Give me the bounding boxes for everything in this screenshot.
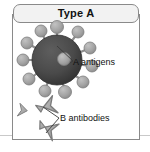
antigen-sphere	[59, 86, 72, 99]
antigen-sphere-front	[58, 53, 71, 66]
diagram-stage: A antigens B antibodies	[12, 14, 140, 140]
antigen-sphere	[39, 85, 51, 97]
b-antibody-small	[17, 103, 28, 117]
antigen-sphere	[84, 42, 96, 54]
b-antibody-lower	[35, 117, 59, 141]
antigen-sphere	[72, 26, 84, 38]
antigen-sphere	[21, 37, 33, 49]
antigen-sphere	[35, 25, 47, 37]
antigen-sphere	[17, 54, 29, 66]
label-b-antibodies: B antibodies	[60, 114, 110, 123]
blood-type-a-diagram: Type A	[0, 0, 150, 152]
antigen-sphere	[23, 73, 35, 85]
label-a-antigens: A antigens	[73, 58, 115, 67]
antigen-sphere	[51, 21, 64, 34]
antigen-sphere	[77, 76, 89, 88]
